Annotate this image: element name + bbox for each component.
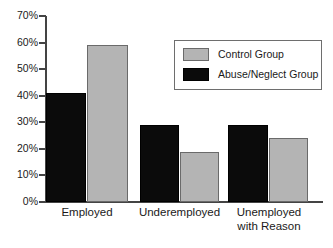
x-axis-label-0: Employed <box>46 206 128 220</box>
bar-abuse-neglect-2 <box>228 125 268 202</box>
bar-abuse-neglect-0 <box>46 93 86 202</box>
legend-label-abuse-neglect-group: Abuse/Neglect Group <box>218 69 318 80</box>
bar-control-1 <box>180 152 219 202</box>
legend-item-abuse-neglect-group: Abuse/Neglect Group <box>183 68 318 81</box>
bar-chart: 0%10%20%30%40%50%60%70% EmployedUnderemp… <box>0 0 333 248</box>
legend-swatch-icon-abuse-neglect-group <box>183 68 209 81</box>
bar-control-2 <box>269 138 308 202</box>
legend-swatch-icon-control-group <box>183 48 209 61</box>
chart-legend: Control Group Abuse/Neglect Group <box>174 40 322 90</box>
x-axis-label-1: Underemployed <box>136 206 223 220</box>
x-axis-label-2: Unemployed with Reason <box>225 206 313 233</box>
legend-item-control-group: Control Group <box>183 48 284 61</box>
legend-label-control-group: Control Group <box>218 49 284 60</box>
bar-control-0 <box>87 45 128 202</box>
bar-abuse-neglect-1 <box>140 125 179 202</box>
plot-area <box>0 0 333 203</box>
